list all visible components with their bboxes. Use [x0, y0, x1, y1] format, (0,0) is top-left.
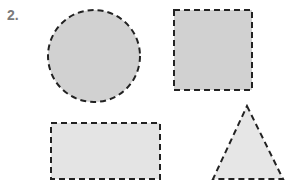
dashed-square — [174, 10, 252, 90]
shapes-figure — [0, 0, 294, 186]
dashed-rectangle — [51, 123, 160, 179]
dashed-triangle — [213, 106, 283, 179]
dashed-circle — [48, 10, 140, 102]
